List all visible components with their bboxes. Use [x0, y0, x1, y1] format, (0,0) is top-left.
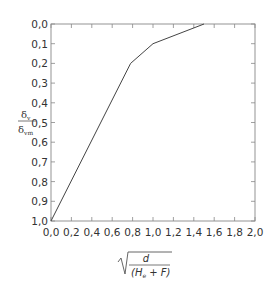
series-layer — [51, 24, 204, 221]
y-tick-label: 0,4 — [31, 97, 48, 109]
x-tick-label: 0,2 — [63, 226, 80, 238]
y-tick-label: 0,2 — [31, 57, 48, 69]
y-tick-label: 0,7 — [31, 156, 48, 168]
y-tick-label: 0,1 — [31, 38, 48, 50]
series-line-envelope — [51, 24, 204, 221]
x-tick-label: 1,4 — [185, 226, 202, 238]
x-tick-label: 0,6 — [104, 226, 121, 238]
x-label-numerator: d — [143, 253, 150, 264]
x-tick-label: 0,8 — [124, 226, 141, 238]
x-tick-label: 1,6 — [206, 226, 223, 238]
ticks-layer — [51, 24, 255, 221]
x-tick-label: 0,4 — [83, 226, 100, 238]
x-axis-label: d (He + F) — [118, 252, 172, 279]
y-tick-label: 0,6 — [31, 136, 48, 148]
x-tick-label: 1,8 — [226, 226, 243, 238]
y-tick-label: 0,3 — [31, 77, 48, 89]
y-tick-label: 0,9 — [31, 195, 48, 207]
y-label-numerator: δv — [21, 109, 31, 121]
y-tick-label: 0,8 — [31, 176, 48, 188]
plot-frame — [51, 24, 255, 221]
x-tick-labels: 0,00,20,40,60,81,01,21,41,61,82,0 — [43, 226, 264, 238]
y-tick-labels: 0,00,10,20,30,40,50,60,70,80,91,0 — [31, 18, 48, 227]
y-tick-label: 0,5 — [31, 117, 48, 129]
x-label-denominator: (He + F) — [131, 267, 171, 279]
x-tick-label: 1,0 — [145, 226, 162, 238]
chart: 0,00,20,40,60,81,01,21,41,61,82,0 0,00,1… — [0, 0, 274, 295]
y-tick-label: 1,0 — [31, 215, 48, 227]
x-tick-label: 2,0 — [247, 226, 264, 238]
x-tick-label: 1,2 — [165, 226, 182, 238]
x-tick-label: 0,0 — [43, 226, 60, 238]
y-tick-label: 0,0 — [31, 18, 48, 30]
